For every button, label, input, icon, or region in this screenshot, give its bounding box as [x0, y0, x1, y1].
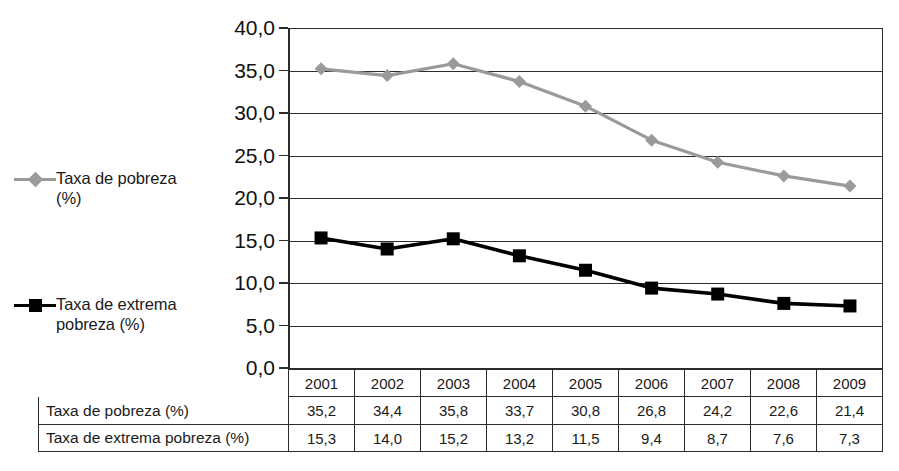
diamond-marker-icon — [27, 171, 43, 187]
series-lines — [288, 28, 883, 368]
table-row-values: 35,234,435,833,730,826,824,222,621,4 — [289, 397, 882, 424]
chart-plot-area: 40,035,030,025,020,015,010,05,00,0 — [288, 28, 883, 368]
legend-label-extreme-poverty: Taxa de extrema pobreza (%) — [56, 294, 176, 334]
square-marker-icon — [843, 299, 856, 312]
y-tick-label: 20,0 — [234, 186, 275, 210]
table-cell: 34,4 — [354, 397, 420, 424]
y-tick-mark — [279, 197, 288, 199]
year-header-cell: 2009 — [816, 370, 882, 396]
square-marker-icon — [645, 282, 658, 295]
table-cell: 33,7 — [486, 397, 552, 424]
y-tick-mark — [279, 367, 288, 369]
table-cell: 8,7 — [684, 425, 750, 451]
y-tick-label: 30,0 — [234, 101, 275, 125]
square-marker-icon — [315, 231, 328, 244]
table-row-values: 15,314,015,213,211,59,48,77,67,3 — [289, 425, 882, 451]
diamond-marker-icon — [315, 62, 328, 75]
y-tick-label: 0,0 — [246, 356, 275, 380]
y-tick-mark — [279, 70, 288, 72]
legend-entry-taxa-de-extrema-pobreza: Taxa de extrema pobreza (%) — [14, 294, 224, 334]
diamond-marker-icon — [381, 69, 394, 82]
legend-marker-extreme-poverty — [14, 296, 56, 314]
diamond-marker-icon — [513, 75, 526, 88]
diamond-marker-icon — [777, 169, 790, 182]
diamond-marker-icon — [843, 180, 856, 193]
table-cell: 35,2 — [289, 397, 354, 424]
year-header-cell: 2003 — [420, 370, 486, 396]
square-marker-icon — [29, 299, 42, 312]
table-row: Taxa de extrema pobreza (%)15,314,015,21… — [39, 424, 882, 451]
year-header-cell: 2008 — [750, 370, 816, 396]
y-tick-label: 15,0 — [234, 229, 275, 253]
table-cell: 15,3 — [289, 425, 354, 451]
year-header-cell: 2005 — [552, 370, 618, 396]
y-tick-label: 25,0 — [234, 144, 275, 168]
square-marker-icon — [447, 232, 460, 245]
table-row: Taxa de pobreza (%)35,234,435,833,730,82… — [39, 397, 882, 424]
diamond-marker-icon — [579, 100, 592, 113]
square-marker-icon — [381, 243, 394, 256]
chart-legend: Taxa de pobreza (%) Taxa de extrema pobr… — [14, 168, 224, 420]
legend-label-poverty: Taxa de pobreza (%) — [56, 168, 177, 208]
y-tick-label: 5,0 — [246, 314, 275, 338]
legend-marker-poverty — [14, 170, 56, 188]
legend-entry-taxa-de-pobreza: Taxa de pobreza (%) — [14, 168, 224, 208]
table-cell: 11,5 — [552, 425, 618, 451]
table-cell: 14,0 — [354, 425, 420, 451]
table-cell: 24,2 — [684, 397, 750, 424]
y-tick-label: 35,0 — [234, 59, 275, 83]
year-header-cell: 2004 — [486, 370, 552, 396]
y-tick-mark — [279, 240, 288, 242]
y-tick-mark — [279, 27, 288, 29]
square-marker-icon — [579, 264, 592, 277]
table-cell: 22,6 — [750, 397, 816, 424]
table-cell: 30,8 — [552, 397, 618, 424]
table-row-label: Taxa de pobreza (%) — [39, 397, 289, 424]
table-row-label: Taxa de extrema pobreza (%) — [39, 425, 289, 451]
table-cell: 9,4 — [618, 425, 684, 451]
diamond-marker-icon — [711, 156, 724, 169]
table-cell: 7,6 — [750, 425, 816, 451]
y-tick-mark — [279, 112, 288, 114]
data-table: Taxa de pobreza (%)35,234,435,833,730,82… — [38, 397, 883, 452]
year-header-cell: 2001 — [288, 370, 354, 396]
series-line — [321, 64, 850, 186]
square-marker-icon — [711, 288, 724, 301]
y-tick-label: 10,0 — [234, 271, 275, 295]
square-marker-icon — [777, 297, 790, 310]
diamond-marker-icon — [447, 57, 460, 70]
year-header-row: 200120022003200420052006200720082009 — [288, 369, 883, 397]
diamond-marker-icon — [645, 134, 658, 147]
y-tick-mark — [279, 155, 288, 157]
year-header-cell: 2002 — [354, 370, 420, 396]
table-cell: 35,8 — [420, 397, 486, 424]
y-tick-mark — [279, 282, 288, 284]
year-header-cell: 2006 — [618, 370, 684, 396]
table-cell: 26,8 — [618, 397, 684, 424]
year-header-cell: 2007 — [684, 370, 750, 396]
table-cell: 13,2 — [486, 425, 552, 451]
table-cell: 21,4 — [816, 397, 882, 424]
y-tick-label: 40,0 — [234, 16, 275, 40]
table-cell: 7,3 — [816, 425, 882, 451]
square-marker-icon — [513, 249, 526, 262]
y-tick-mark — [279, 325, 288, 327]
table-cell: 15,2 — [420, 425, 486, 451]
